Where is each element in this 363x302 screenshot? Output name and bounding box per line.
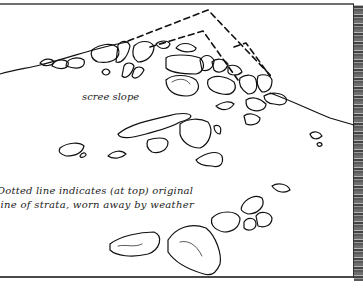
scree-slope-label: scree slope xyxy=(82,91,139,102)
strata-dashed-lines xyxy=(128,10,272,80)
mid-scree-rocks xyxy=(59,76,235,167)
hill-outline xyxy=(0,42,354,125)
caption-line-1: Dotted line indicates (at top) original xyxy=(0,185,193,196)
scree-slope-illustration: scree slope Dotted line indicates (at to… xyxy=(0,0,363,302)
caption-line-2: line of strata, worn away by weather xyxy=(0,199,194,210)
crest-rocks xyxy=(40,41,242,78)
lower-rocks xyxy=(110,184,290,275)
line-drawing xyxy=(0,0,363,302)
right-rock-cluster xyxy=(216,75,322,147)
